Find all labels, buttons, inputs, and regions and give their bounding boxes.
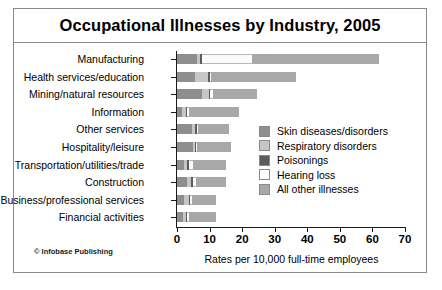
legend-item: Skin diseases/disorders	[259, 124, 388, 139]
chart-legend: Skin diseases/disordersRespiratory disor…	[259, 124, 388, 197]
x-axis-tick	[372, 227, 373, 232]
bar-segment	[189, 212, 216, 222]
category-label: Health services/education	[24, 71, 144, 83]
x-axis-tick-label: 50	[333, 233, 346, 245]
legend-label: Poisonings	[277, 154, 328, 166]
stacked-bar	[177, 160, 226, 170]
x-axis-title: Rates per 10,000 full-time employees	[177, 253, 406, 265]
bar-segment	[189, 107, 239, 117]
legend-label: All other illnesses	[277, 183, 359, 195]
chart-frame: Occupational Illnesses by Industry, 2005…	[13, 8, 427, 273]
category-label: Mining/natural resources	[29, 88, 144, 100]
category-label: Hospitality/leisure	[62, 141, 144, 153]
bar-segment	[195, 72, 208, 82]
legend-swatch	[259, 126, 270, 137]
stacked-bar	[177, 124, 229, 134]
stacked-bar	[177, 177, 226, 187]
bar-segment	[252, 54, 379, 64]
category-label: Transportation/utilities/trade	[15, 159, 144, 171]
x-axis-tick-label: 20	[236, 233, 249, 245]
bar-segment	[196, 177, 226, 187]
bar-segment	[193, 160, 226, 170]
y-axis-tick	[171, 94, 176, 95]
category-label: Other services	[76, 123, 144, 135]
y-axis-tick	[171, 59, 176, 60]
bar-segment	[198, 124, 229, 134]
y-axis-tick	[171, 200, 176, 201]
bar-segment	[177, 195, 184, 205]
bar-row: Information	[14, 104, 426, 120]
bar-segment	[177, 177, 187, 187]
category-label: Financial activities	[59, 211, 144, 223]
bar-segment	[177, 124, 192, 134]
x-axis-tick	[177, 227, 178, 232]
legend-label: Skin diseases/disorders	[277, 125, 388, 137]
x-axis-tick-label: 0	[174, 233, 180, 245]
stacked-bar	[177, 195, 216, 205]
bar-segment	[197, 142, 231, 152]
x-axis-tick-label: 10	[203, 233, 216, 245]
x-axis-tick	[210, 227, 211, 232]
x-axis-tick	[275, 227, 276, 232]
category-label: Manufacturing	[77, 53, 144, 65]
y-axis-tick	[171, 112, 176, 113]
y-axis-tick	[171, 165, 176, 166]
plot-area: ManufacturingHealth services/educationMi…	[14, 43, 426, 272]
stacked-bar	[177, 212, 216, 222]
legend-swatch	[259, 140, 270, 151]
bar-segment	[177, 72, 195, 82]
legend-swatch	[259, 184, 270, 195]
bar-segment	[202, 54, 252, 64]
stacked-bar	[177, 54, 379, 64]
bar-row: Health services/education	[14, 69, 426, 85]
legend-item: Hearing loss	[259, 168, 388, 183]
category-label: Information	[91, 106, 144, 118]
stacked-bar	[177, 89, 257, 99]
x-axis-tick	[307, 227, 308, 232]
x-axis-tick	[242, 227, 243, 232]
y-axis-tick	[171, 182, 176, 183]
bar-segment	[177, 54, 197, 64]
y-axis-tick	[171, 217, 176, 218]
x-axis-tick-label: 40	[301, 233, 314, 245]
page-title: Occupational Illnesses by Industry, 2005	[60, 16, 381, 35]
x-axis-tick-label: 30	[268, 233, 281, 245]
bar-segment	[177, 89, 202, 99]
legend-item: Respiratory disorders	[259, 139, 388, 154]
bar-segment	[192, 195, 216, 205]
chart-title-band: Occupational Illnesses by Industry, 2005	[14, 9, 426, 43]
bar-row: Manufacturing	[14, 51, 426, 67]
legend-item: All other illnesses	[259, 182, 388, 197]
bar-segment	[211, 72, 296, 82]
x-axis-tick	[340, 227, 341, 232]
legend-label: Respiratory disorders	[277, 140, 377, 152]
bar-row: Mining/natural resources	[14, 86, 426, 102]
publisher-credit: © Infobase Publishing	[34, 247, 113, 256]
y-axis-tick	[171, 77, 176, 78]
stacked-bar	[177, 142, 231, 152]
x-axis-tick-label: 60	[366, 233, 379, 245]
category-label: Business/professional services	[0, 194, 144, 206]
y-axis-tick	[171, 129, 176, 130]
category-label: Construction	[85, 176, 144, 188]
legend-swatch	[259, 155, 270, 166]
legend-item: Poisonings	[259, 153, 388, 168]
bar-segment	[213, 89, 256, 99]
bar-row: Financial activities	[14, 209, 426, 225]
x-axis-tick-label: 70	[399, 233, 412, 245]
legend-label: Hearing loss	[277, 169, 335, 181]
bar-segment	[177, 142, 193, 152]
x-axis-tick	[405, 227, 406, 232]
legend-swatch	[259, 169, 270, 180]
stacked-bar	[177, 72, 296, 82]
y-axis-tick	[171, 147, 176, 148]
stacked-bar	[177, 107, 239, 117]
